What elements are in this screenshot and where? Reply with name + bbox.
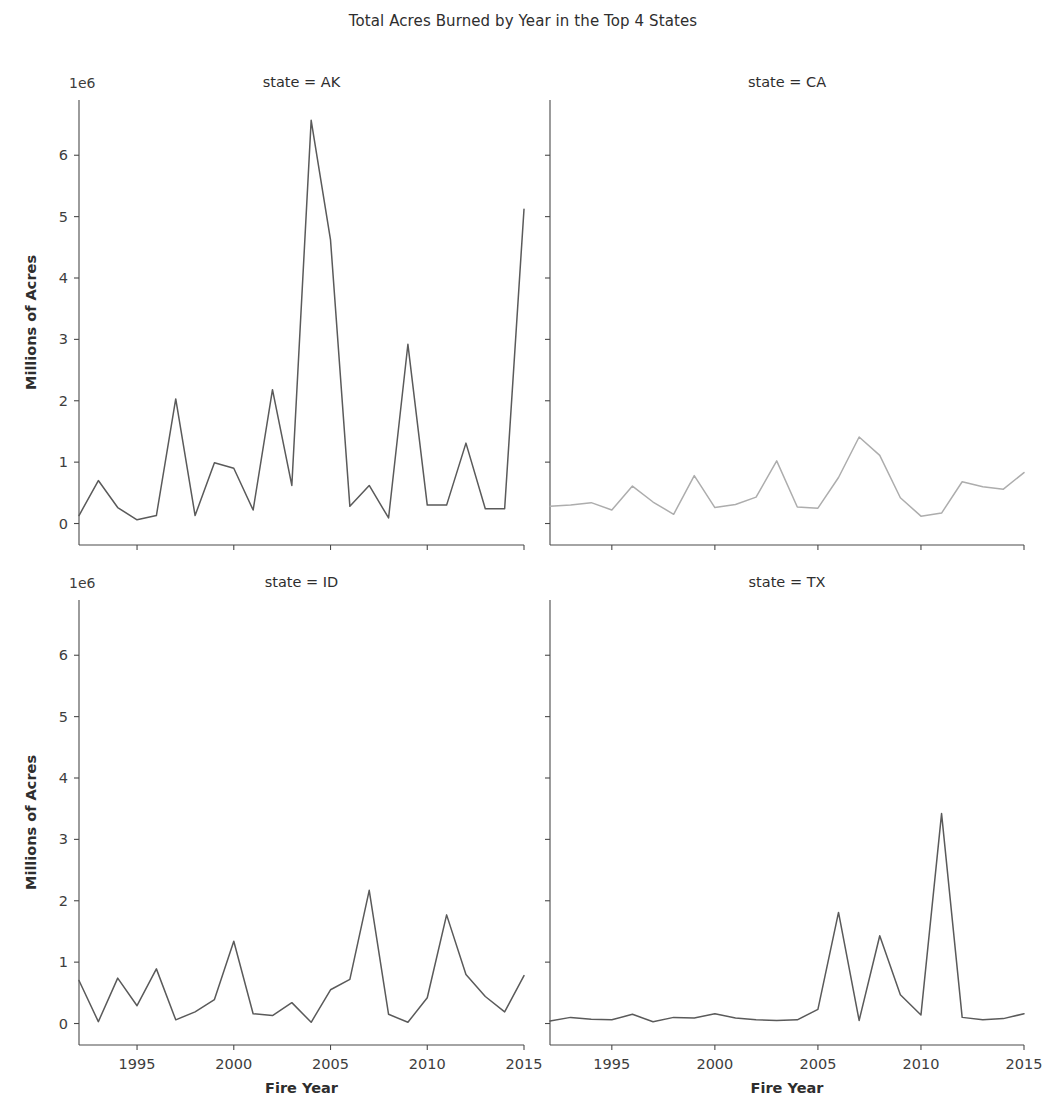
x-tick-label: 1995 (119, 1056, 156, 1072)
y-tick-label: 5 (59, 709, 68, 725)
y-axis-title: Millions of Acres (23, 755, 39, 890)
facet-grid-plot: 01234561e6Millions of Acresstate = AKsta… (0, 0, 1046, 1115)
panel-title-ak: state = AK (263, 74, 341, 90)
panel-title-tx: state = TX (749, 574, 826, 590)
y-tick-label: 3 (59, 831, 68, 847)
y-tick-label: 3 (59, 331, 68, 347)
x-tick-label: 2005 (799, 1056, 836, 1072)
figure-title: Total Acres Burned by Year in the Top 4 … (0, 12, 1046, 30)
y-tick-label: 0 (59, 1016, 68, 1032)
y-tick-label: 6 (59, 147, 68, 163)
figure-canvas: Total Acres Burned by Year in the Top 4 … (0, 0, 1046, 1115)
x-tick-label: 2015 (1006, 1056, 1043, 1072)
y-tick-label: 1 (59, 954, 68, 970)
y-axis-offset-label: 1e6 (69, 75, 96, 91)
series-line-ak (79, 120, 524, 520)
x-tick-label: 2015 (506, 1056, 543, 1072)
y-tick-label: 6 (59, 647, 68, 663)
x-tick-label: 2005 (312, 1056, 349, 1072)
y-tick-label: 1 (59, 454, 68, 470)
series-line-ca (550, 437, 1024, 516)
x-tick-label: 2010 (903, 1056, 940, 1072)
panel-ca: state = CA (545, 74, 1024, 550)
y-tick-label: 0 (59, 516, 68, 532)
y-axis-offset-label: 1e6 (69, 575, 96, 591)
panel-tx: 19952000200520102015Fire Yearstate = TX (545, 574, 1042, 1096)
y-axis-title: Millions of Acres (23, 255, 39, 390)
x-axis-title: Fire Year (751, 1080, 825, 1096)
x-axis-title: Fire Year (265, 1080, 339, 1096)
panel-id: 0123456199520002005201020151e6Fire YearM… (23, 574, 542, 1096)
x-tick-label: 1995 (593, 1056, 630, 1072)
series-line-tx (550, 814, 1024, 1022)
x-tick-label: 2000 (215, 1056, 252, 1072)
y-tick-label: 5 (59, 209, 68, 225)
panel-ak: 01234561e6Millions of Acresstate = AK (23, 74, 524, 550)
panel-title-ca: state = CA (748, 74, 826, 90)
y-tick-label: 2 (59, 893, 68, 909)
y-tick-label: 2 (59, 393, 68, 409)
panel-title-id: state = ID (265, 574, 339, 590)
y-tick-label: 4 (59, 770, 68, 786)
x-tick-label: 2000 (696, 1056, 733, 1072)
x-tick-label: 2010 (409, 1056, 446, 1072)
y-tick-label: 4 (59, 270, 68, 286)
series-line-id (79, 890, 524, 1022)
